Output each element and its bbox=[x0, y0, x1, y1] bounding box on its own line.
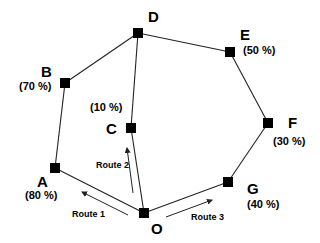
node-label-F: F bbox=[288, 115, 297, 130]
edge-D-C bbox=[131, 33, 138, 128]
edge-A-B bbox=[55, 83, 65, 168]
node-label-C: C bbox=[106, 121, 117, 136]
edge-C-O bbox=[131, 128, 144, 213]
edge-F-G bbox=[228, 123, 268, 182]
edge-B-D bbox=[65, 33, 138, 83]
node-A bbox=[50, 163, 60, 173]
node-C bbox=[126, 123, 136, 133]
node-B bbox=[60, 78, 70, 88]
node-E bbox=[225, 47, 235, 57]
node-percent-C: (10 %) bbox=[90, 102, 122, 113]
node-label-G: G bbox=[247, 181, 259, 196]
edge-G-O bbox=[144, 182, 228, 213]
node-label-D: D bbox=[148, 9, 159, 24]
node-percent-F: (30 %) bbox=[273, 136, 305, 147]
node-percent-B: (70 %) bbox=[19, 81, 51, 92]
node-F bbox=[263, 118, 273, 128]
node-O bbox=[139, 208, 149, 218]
edge-D-E bbox=[138, 33, 230, 52]
route-1-label: Route 1 bbox=[72, 210, 105, 219]
node-label-E: E bbox=[240, 27, 250, 42]
node-G bbox=[223, 177, 233, 187]
route-2-label: Route 2 bbox=[96, 161, 129, 170]
node-label-B: B bbox=[41, 64, 52, 79]
edge-E-F bbox=[230, 52, 268, 123]
node-percent-A: (80 %) bbox=[25, 190, 57, 201]
route-3-label: Route 3 bbox=[191, 213, 224, 222]
node-D bbox=[133, 28, 143, 38]
node-label-A: A bbox=[37, 174, 48, 189]
route-2-arrow bbox=[127, 148, 133, 193]
nodes bbox=[50, 28, 273, 218]
edges bbox=[55, 33, 268, 213]
node-percent-G: (40 %) bbox=[247, 199, 279, 210]
node-label-O: O bbox=[151, 221, 163, 236]
route-arrows bbox=[82, 148, 212, 217]
node-percent-E: (50 %) bbox=[243, 45, 275, 56]
